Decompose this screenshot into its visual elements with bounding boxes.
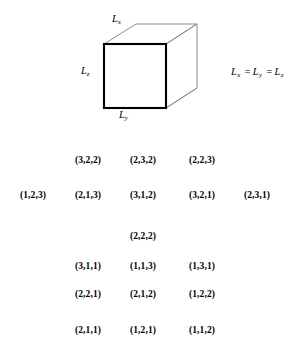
triplet-cell: (3,1,2) — [115, 187, 171, 203]
dimension-equality-equation: Lx=Ly=Lz — [231, 67, 284, 79]
triplet-row: (3,1,1)(1,1,3)(1,3,1) — [0, 258, 306, 274]
triplet-row: (2,2,2) — [0, 228, 306, 244]
triplet-cell: (1,3,1) — [174, 258, 230, 274]
triplet-cell: (2,1,1) — [60, 322, 116, 338]
triplet-cell: (1,2,1) — [115, 322, 171, 338]
triplet-row: (2,1,1)(1,2,1)(1,1,2) — [0, 322, 306, 338]
triplet-cell: (2,1,2) — [115, 286, 171, 302]
triplet-cell: (1,1,2) — [174, 322, 230, 338]
cubic-box-figure: Lx Lz Ly Lx=Ly=Lz — [0, 0, 306, 140]
triplet-cell: (2,3,2) — [115, 152, 171, 168]
triplet-row: (2,2,1)(2,1,2)(1,2,2) — [0, 286, 306, 302]
triplet-cell: (3,2,1) — [174, 187, 230, 203]
triplet-row: (1,2,3)(2,1,3)(3,1,2)(3,2,1)(2,3,1) — [0, 187, 306, 203]
triplet-cell: (3,1,1) — [60, 258, 116, 274]
triplet-row: (3,2,2)(2,3,2)(2,2,3) — [0, 152, 306, 168]
triplet-cell: (2,2,2) — [115, 228, 171, 244]
dimension-label-lx: Lx — [112, 14, 121, 26]
triplet-cell: (1,1,3) — [115, 258, 171, 274]
quantum-number-triplet-table: (3,2,2)(2,3,2)(2,2,3)(1,2,3)(2,1,3)(3,1,… — [0, 140, 306, 355]
triplet-cell: (2,2,1) — [60, 286, 116, 302]
dimension-label-lz: Lz — [81, 66, 90, 78]
triplet-cell: (2,2,3) — [174, 152, 230, 168]
triplet-cell: (2,3,1) — [229, 187, 285, 203]
dimension-label-ly: Ly — [119, 110, 128, 122]
triplet-cell: (1,2,2) — [174, 286, 230, 302]
triplet-cell: (2,1,3) — [60, 187, 116, 203]
triplet-cell: (1,2,3) — [5, 187, 61, 203]
cube-front-face — [104, 44, 166, 108]
triplet-cell: (3,2,2) — [60, 152, 116, 168]
